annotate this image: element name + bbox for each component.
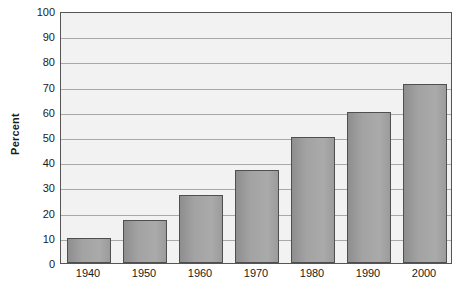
x-axis-tick-labels: 1940195019601970198019902000	[60, 268, 452, 288]
x-axis-tick-label: 1950	[132, 268, 156, 279]
x-axis-tick-label: 1990	[356, 268, 380, 279]
bar	[179, 195, 223, 263]
y-axis-tick-labels: 0102030405060708090100	[22, 12, 55, 264]
y-axis-tick-label: 10	[22, 233, 55, 244]
y-axis-tick-label: 100	[22, 7, 55, 18]
plot-area	[60, 12, 452, 264]
bar-chart-figure: Percent 0102030405060708090100 194019501…	[0, 0, 464, 290]
bar	[235, 170, 279, 263]
bar	[67, 238, 111, 263]
y-axis-tick-label: 30	[22, 183, 55, 194]
y-axis-tick-label: 40	[22, 158, 55, 169]
x-axis-tick-label: 1980	[300, 268, 324, 279]
y-axis-tick-label: 60	[22, 107, 55, 118]
bar	[347, 112, 391, 263]
bar	[291, 137, 335, 263]
x-axis-tick-label: 1970	[244, 268, 268, 279]
x-axis-tick-label: 2000	[412, 268, 436, 279]
y-axis-title-label: Percent	[9, 113, 21, 155]
y-axis-tick-label: 0	[22, 259, 55, 270]
bar	[123, 220, 167, 263]
x-axis-tick-label: 1960	[188, 268, 212, 279]
y-axis-tick-label: 90	[22, 32, 55, 43]
y-axis-tick-label: 80	[22, 57, 55, 68]
y-axis-tick-label: 50	[22, 133, 55, 144]
bars-layer	[61, 13, 451, 263]
bar	[403, 84, 447, 263]
y-axis-tick-label: 20	[22, 208, 55, 219]
y-axis-tick-label: 70	[22, 82, 55, 93]
x-axis-tick-label: 1940	[76, 268, 100, 279]
